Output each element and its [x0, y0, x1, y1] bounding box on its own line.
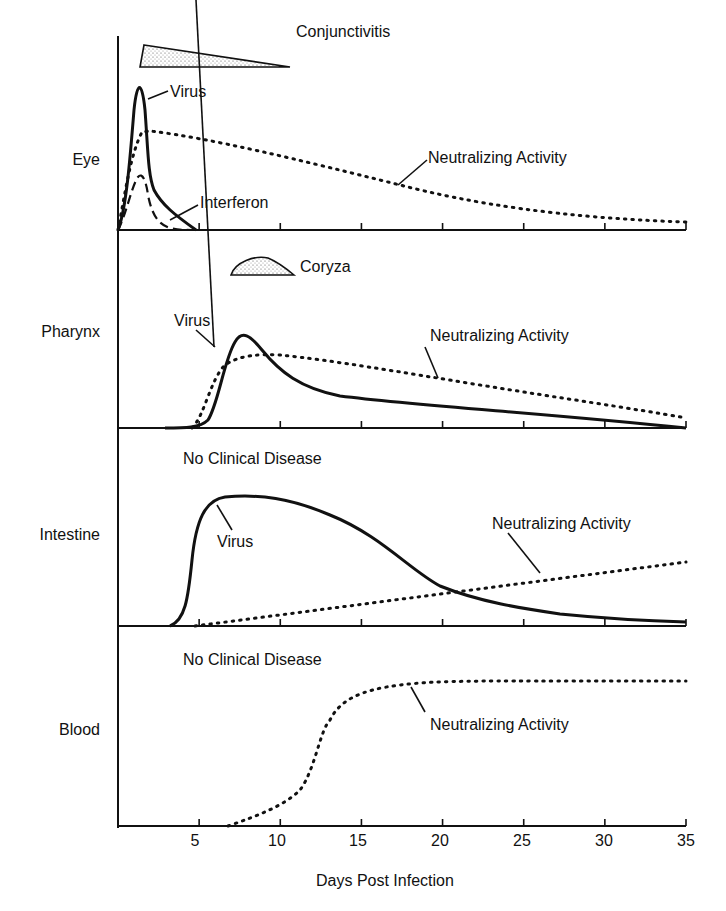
blood-panel [228, 681, 686, 826]
conjunctivitis-bar [140, 45, 290, 67]
pharynx-virus-pointer-line [196, 330, 215, 347]
eye-interferon-curve [118, 176, 192, 230]
x-tick-30: 30 [595, 833, 613, 849]
eye-virus-curve [118, 88, 196, 231]
panel-label-eye: Eye [0, 152, 100, 168]
blood-neutralizing-pointer [411, 687, 425, 712]
coryza-label: Coryza [300, 259, 351, 275]
x-tick-10: 10 [268, 833, 286, 849]
intestine-virus-pointer [217, 505, 232, 530]
axes [118, 36, 686, 828]
x-tick-35: 35 [677, 833, 695, 849]
chart-canvas [0, 0, 726, 911]
blood-neutralizing-curve [228, 681, 686, 826]
x-tick-25: 25 [513, 833, 531, 849]
eye-interferon-label: Interferon [200, 195, 268, 211]
panel-label-intestine: Intestine [0, 527, 100, 543]
panel-label-blood: Blood [0, 722, 100, 738]
pharynx-neutralizing-pointer [425, 347, 438, 378]
blood-clinical-label: No Clinical Disease [183, 652, 322, 668]
intestine-virus-label: Virus [217, 534, 253, 550]
conjunctivitis-label: Conjunctivitis [296, 24, 390, 40]
intestine-clinical-label: No Clinical Disease [183, 451, 322, 467]
coryza-bar [231, 257, 294, 275]
pharynx-neutralizing-curve [192, 355, 686, 428]
eye-neutralizing-pointer [398, 160, 427, 185]
eye-virus-pointer [148, 91, 168, 99]
intestine-neutralizing-pointer [508, 533, 540, 573]
pharynx-neutralizing-label: Neutralizing Activity [430, 328, 569, 344]
eye-virus-label: Virus [170, 84, 206, 100]
pharynx-virus-pointer [196, 0, 214, 347]
intestine-neutralizing-label: Neutralizing Activity [492, 516, 631, 532]
x-axis-title: Days Post Infection [316, 873, 454, 889]
x-tick-15: 15 [349, 833, 367, 849]
eye-neutralizing-label: Neutralizing Activity [428, 150, 567, 166]
x-tick-5: 5 [191, 833, 200, 849]
x-tick-20: 20 [431, 833, 449, 849]
blood-neutralizing-label: Neutralizing Activity [430, 717, 569, 733]
intestine-neutralizing-curve [195, 562, 686, 626]
pharynx-virus-label: Virus [174, 313, 210, 329]
panel-label-pharynx: Pharynx [0, 324, 100, 340]
